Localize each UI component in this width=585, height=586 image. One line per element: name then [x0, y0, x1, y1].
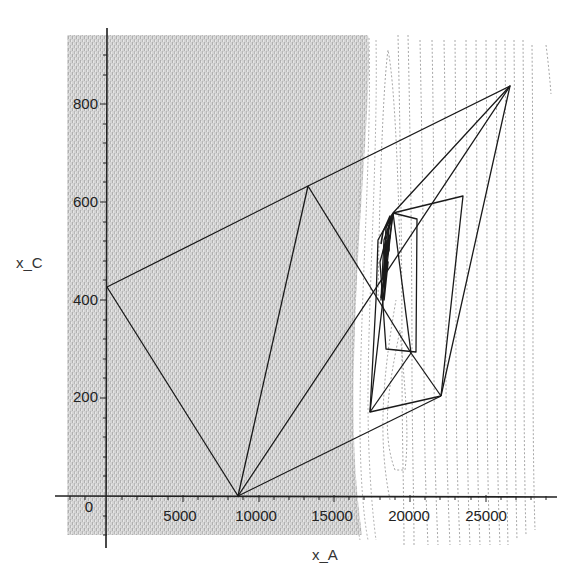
contour-background	[67, 35, 551, 545]
x-tick-25000: 25000	[465, 507, 507, 524]
y-axis	[106, 28, 107, 548]
x-tick-20000: 20000	[388, 507, 430, 524]
chart-svg: 0 5000 10000 15000 20000 25000 200 400 6…	[0, 0, 585, 586]
y-tick-600: 600	[73, 193, 98, 210]
x-tick-15000: 15000	[311, 507, 353, 524]
y-axis-label: x_C	[16, 254, 43, 271]
y-tick-400: 400	[73, 291, 98, 308]
x-axis	[55, 496, 557, 497]
y-tick-200: 200	[73, 388, 98, 405]
x-tick-0: 0	[85, 498, 93, 515]
x-tick-10000: 10000	[235, 507, 277, 524]
x-tick-5000: 5000	[163, 507, 196, 524]
y-tick-800: 800	[73, 95, 98, 112]
x-axis-label: x_A	[312, 546, 338, 563]
